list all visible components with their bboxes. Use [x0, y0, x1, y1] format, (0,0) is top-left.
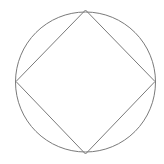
diagram-canvas	[0, 0, 164, 164]
circle	[16, 12, 156, 152]
inscribed-square-diagram	[0, 0, 164, 164]
